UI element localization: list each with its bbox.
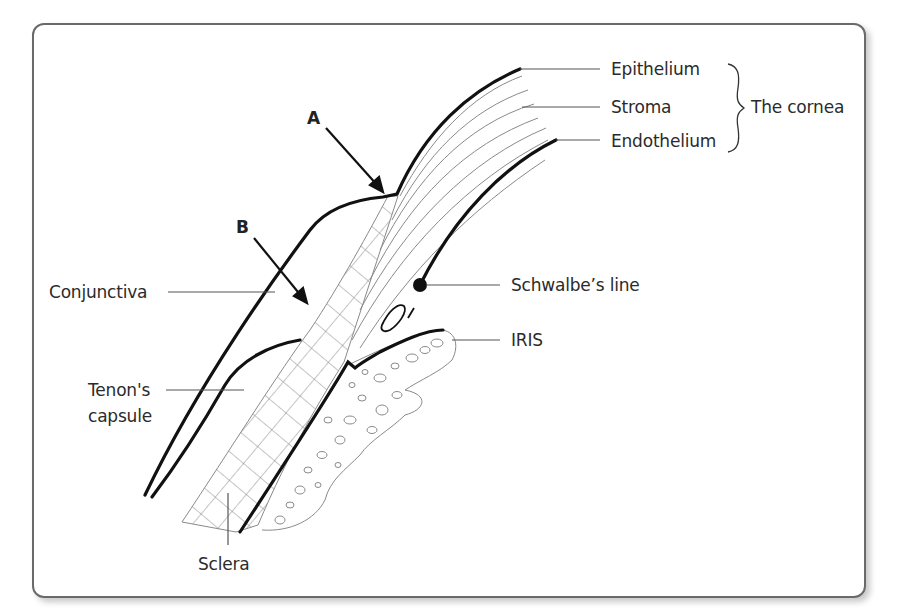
- schwalbes-line-dot: [413, 278, 427, 292]
- cornea-brace: [728, 64, 744, 152]
- label-endothelium: Endothelium: [611, 133, 716, 150]
- label-stroma: Stroma: [611, 99, 671, 116]
- label-epithelium: Epithelium: [611, 61, 700, 78]
- label-the-cornea: The cornea: [751, 99, 844, 116]
- label-tenons-line1: Tenon's: [88, 382, 150, 399]
- label-arrow-b: B: [236, 219, 249, 236]
- label-tenons-line2: capsule: [88, 408, 152, 425]
- schlemms-canal: [381, 305, 414, 331]
- label-iris: IRIS: [511, 332, 543, 349]
- label-sclera: Sclera: [198, 556, 250, 573]
- conjunctiva-outer-surface: [145, 69, 520, 495]
- label-conjunctiva: Conjunctiva: [49, 284, 147, 301]
- label-arrow-a: A: [307, 110, 320, 127]
- sclera-region: [182, 196, 398, 532]
- label-schwalbes-line: Schwalbe’s line: [511, 277, 640, 294]
- eye-angle-diagram: [0, 0, 897, 615]
